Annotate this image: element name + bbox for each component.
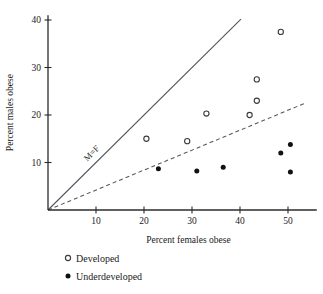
y-tick-label: 10 bbox=[32, 158, 42, 168]
data-point bbox=[185, 139, 190, 144]
data-point bbox=[194, 169, 199, 174]
data-point bbox=[247, 112, 252, 117]
x-tick-label: 10 bbox=[91, 216, 101, 226]
data-point bbox=[254, 98, 259, 103]
data-point bbox=[144, 136, 149, 141]
data-point bbox=[278, 151, 283, 156]
x-tick-label: 50 bbox=[283, 216, 293, 226]
data-point bbox=[278, 29, 283, 34]
data-point bbox=[204, 111, 209, 116]
x-tick-label: 20 bbox=[139, 216, 149, 226]
data-point bbox=[288, 170, 293, 175]
reference-lines bbox=[48, 19, 305, 210]
x-tick-label: 40 bbox=[235, 216, 245, 226]
y-tick-label: 40 bbox=[32, 15, 42, 25]
series-underdeveloped-points bbox=[156, 142, 293, 175]
chart-canvas: M=F 1020304050 10203040 Percent females … bbox=[0, 0, 323, 294]
x-tick-label: 30 bbox=[187, 216, 197, 226]
legend-open-circle-icon bbox=[65, 255, 70, 260]
x-axis-title: Percent females obese bbox=[146, 235, 230, 245]
legend: Developed Underdeveloped bbox=[65, 253, 142, 282]
data-point bbox=[288, 142, 293, 147]
legend-label-underdeveloped: Underdeveloped bbox=[76, 271, 142, 282]
m-equals-f-line bbox=[48, 19, 241, 210]
data-point bbox=[254, 77, 259, 82]
legend-filled-circle-icon bbox=[66, 274, 71, 279]
data-point bbox=[221, 165, 226, 170]
legend-label-developed: Developed bbox=[76, 253, 119, 264]
y-axis-title: Percent males obese bbox=[5, 74, 15, 151]
data-point bbox=[156, 166, 161, 171]
y-tick-label: 20 bbox=[32, 110, 42, 120]
scatter-chart-figure: M=F 1020304050 10203040 Percent females … bbox=[0, 0, 323, 294]
y-tick-label: 30 bbox=[32, 63, 42, 73]
axes bbox=[48, 15, 317, 210]
